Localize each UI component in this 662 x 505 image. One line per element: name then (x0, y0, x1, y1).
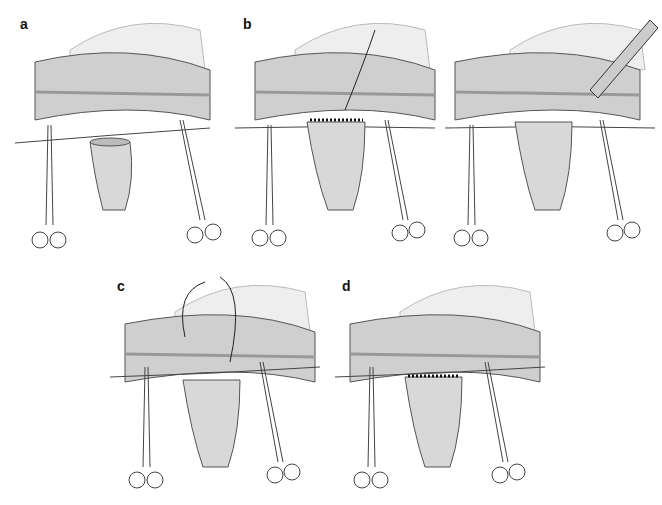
panel-b1: b (225, 0, 440, 250)
clamp-left-icon (32, 125, 66, 248)
colon-illustration (225, 0, 440, 250)
colon-illustration (330, 262, 552, 505)
panel-d: d (330, 262, 552, 505)
colon-illustration (105, 262, 325, 505)
colon (35, 53, 210, 120)
panel-a: a (0, 0, 220, 250)
bowel-stump (90, 138, 132, 210)
panel-b2 (440, 0, 662, 250)
colon-illustration (0, 0, 220, 250)
panel-c: c (105, 262, 325, 505)
clamp-right-icon (180, 120, 221, 243)
colon-illustration (440, 0, 662, 250)
